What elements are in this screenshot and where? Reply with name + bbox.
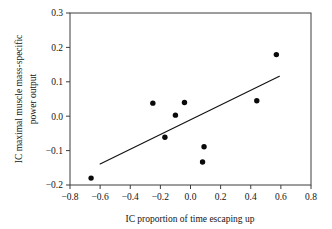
y-tick-label: 0.3 bbox=[51, 8, 63, 18]
y-axis-title-line1: IC maximal muscle mass-specific bbox=[14, 35, 24, 163]
y-tick-label: 0.1 bbox=[51, 77, 63, 87]
x-axis-ticks bbox=[70, 185, 311, 189]
y-tick-label: 0.0 bbox=[51, 112, 63, 122]
x-tick-label: 0.2 bbox=[215, 192, 227, 202]
x-tick-label: −0.6 bbox=[92, 192, 109, 202]
plot-canvas: −0.8−0.6−0.4−0.20.00.20.40.60.8 −0.2−0.1… bbox=[0, 0, 332, 229]
data-point bbox=[200, 159, 205, 164]
data-point bbox=[88, 175, 93, 180]
x-axis-tick-labels: −0.8−0.6−0.4−0.20.00.20.40.60.8 bbox=[61, 192, 317, 202]
data-point bbox=[150, 100, 155, 105]
y-axis-tick-labels: −0.2−0.10.00.10.20.3 bbox=[46, 8, 63, 190]
x-tick-label: 0.4 bbox=[245, 192, 257, 202]
data-point bbox=[182, 100, 187, 105]
data-points bbox=[88, 52, 279, 181]
y-tick-label: 0.2 bbox=[51, 43, 63, 53]
y-axis-title-line2: power output bbox=[28, 73, 38, 124]
y-tick-label: −0.1 bbox=[46, 146, 63, 156]
y-axis-ticks bbox=[66, 13, 70, 185]
data-point bbox=[274, 52, 279, 57]
data-point bbox=[201, 144, 206, 149]
data-point bbox=[173, 112, 178, 117]
x-tick-label: −0.8 bbox=[61, 192, 78, 202]
y-tick-label: −0.2 bbox=[46, 180, 63, 190]
x-tick-label: −0.2 bbox=[152, 192, 169, 202]
trend-line bbox=[100, 76, 279, 164]
x-tick-label: 0.0 bbox=[185, 192, 197, 202]
scatter-plot-figure: −0.8−0.6−0.4−0.20.00.20.40.60.8 −0.2−0.1… bbox=[0, 0, 332, 229]
regression-line bbox=[100, 76, 279, 164]
x-tick-label: 0.6 bbox=[275, 192, 287, 202]
plot-frame bbox=[70, 13, 311, 185]
data-point bbox=[162, 134, 167, 139]
x-axis-title: IC proportion of time escaping up bbox=[125, 214, 254, 224]
x-tick-label: 0.8 bbox=[305, 192, 317, 202]
data-point bbox=[254, 98, 259, 103]
x-tick-label: −0.4 bbox=[122, 192, 139, 202]
